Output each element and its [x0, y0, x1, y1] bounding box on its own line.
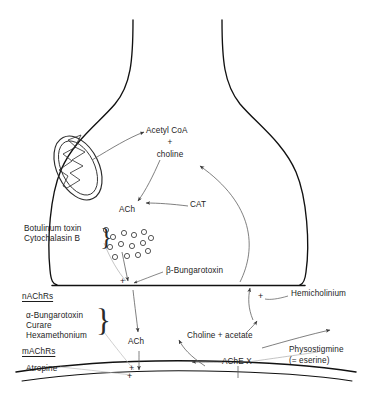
label-atropine: Atropine	[26, 364, 57, 374]
arrow-choline-uptake	[249, 288, 253, 320]
arrow-ach-release-into-cleft	[133, 290, 138, 332]
label-curare: Curare	[26, 321, 52, 331]
label-machrs: mAChRs	[22, 347, 55, 357]
arrow-choline-recycle-to-pool	[200, 166, 249, 282]
label-hemicholinium: Hemicholinium	[291, 289, 346, 299]
label-ach-terminal: ACh	[119, 205, 135, 215]
plus-muscarinic-receptor-site: +	[127, 372, 132, 381]
label-acetyl-coa: Acetyl CoA	[146, 126, 188, 136]
brace-nicotinic-antagonists: }	[96, 305, 111, 336]
label-hexamethonium: Hexamethonium	[26, 331, 87, 341]
arrow-cat-to-ach	[146, 203, 188, 206]
label-alpha-bungarotoxin: α-Bungarotoxin	[26, 311, 83, 321]
arrow-mitochondrion-to-acetylcoa	[92, 132, 144, 160]
arrow-choline-to-ach	[138, 160, 160, 201]
label-eserine: (= eserine)	[289, 356, 329, 366]
label-cat-enzyme: CAT	[190, 200, 206, 210]
leader-hemicholinium	[265, 296, 288, 299]
plus-choline-uptake-site: +	[258, 292, 263, 301]
label-choline: choline	[146, 150, 194, 160]
plus-presynaptic-release-site: +	[120, 277, 125, 286]
leader-atropine	[60, 367, 131, 375]
label-cytochalasin-b: Cytochalasin B	[24, 234, 80, 244]
cholinergic-synapse-diagram: } } Acetyl CoA + choline CAT ACh Botulin…	[0, 0, 370, 395]
label-beta-bungarotoxin: β-Bungarotoxin	[166, 266, 223, 276]
label-plus-sign: +	[146, 138, 194, 148]
label-physostigmine: Physostigmine	[289, 345, 344, 355]
label-botulinum-toxin: Botulinum toxin	[24, 224, 81, 234]
label-nachrs: nAChRs	[22, 292, 53, 302]
brace-presynaptic-toxins: }	[100, 224, 112, 250]
leader-beta-bungarotoxin	[134, 272, 163, 283]
label-ache: AChE X	[222, 357, 252, 367]
label-choline-acetate: Choline + acetate	[187, 331, 253, 341]
label-ach-cleft: ACh	[128, 337, 144, 347]
